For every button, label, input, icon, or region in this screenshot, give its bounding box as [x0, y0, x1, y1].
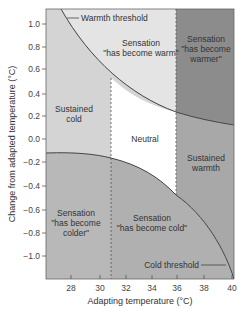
- sustained-cold-label-2: cold: [66, 114, 82, 124]
- y-tick-label: −0.4: [23, 181, 40, 191]
- y-tick-label: −0.8: [23, 228, 40, 238]
- warm-label-1: Sensation: [122, 38, 160, 48]
- x-tick-label: 38: [199, 283, 209, 293]
- warmer-label-1: Sensation: [187, 34, 225, 44]
- colder-label-1: Sensation: [57, 208, 95, 218]
- y-tick-label: −1.0: [23, 251, 40, 261]
- x-tick-label: 32: [121, 283, 131, 293]
- x-tick-label: 30: [95, 283, 105, 293]
- colder-label-2: "has become: [51, 218, 101, 228]
- sustained-warmth-label-2: warmth: [191, 163, 220, 173]
- y-tick-label: 0.6: [28, 64, 40, 74]
- neutral-label: Neutral: [131, 134, 159, 144]
- y-tick-label: −0.6: [23, 205, 40, 215]
- y-tick-label: 1.0: [28, 19, 40, 29]
- y-axis: [42, 24, 46, 256]
- x-tick-label: 34: [147, 283, 157, 293]
- y-tick-label: −0.2: [23, 157, 40, 167]
- x-tick-label: 40: [227, 283, 237, 293]
- x-axis-title: Adapting temperature (°C): [87, 296, 192, 306]
- y-axis-title: Change from adapted temperature (°C): [7, 66, 17, 223]
- cold-label-1: Sensation: [133, 213, 171, 223]
- region-has-become-warmer: [176, 9, 234, 125]
- chart: 1.0 0.8 0.6 0.4 0.2 0.0 −0.2 −0.4 −0.6 −…: [0, 0, 243, 309]
- sustained-warmth-label-1: Sustained: [187, 153, 225, 163]
- y-tick-label: 0.2: [28, 111, 40, 121]
- cold-label-2: "has become cold": [117, 223, 187, 233]
- warmer-label-3: warmer": [189, 54, 221, 64]
- x-tick-label: 28: [66, 283, 76, 293]
- y-tick-label: 0.4: [28, 89, 40, 99]
- warmth-threshold-label: Warmth threshold: [81, 13, 148, 23]
- x-tick-label: 36: [172, 283, 182, 293]
- y-tick-label: 0.8: [28, 42, 40, 52]
- warm-label-2: "has become warm": [103, 48, 178, 58]
- colder-label-3: colder": [63, 228, 89, 238]
- warmer-label-2: "has become: [181, 44, 231, 54]
- cold-threshold-label: Cold threshold: [144, 260, 199, 270]
- sustained-cold-label-1: Sustained: [55, 104, 93, 114]
- y-tick-label: 0.0: [28, 134, 40, 144]
